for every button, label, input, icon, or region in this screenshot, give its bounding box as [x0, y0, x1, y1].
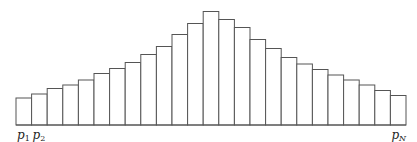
label-p2: p2	[33, 129, 46, 142]
bar	[32, 94, 48, 125]
bar	[63, 85, 79, 125]
bar	[297, 64, 313, 125]
bar	[188, 24, 204, 126]
bar	[219, 20, 235, 126]
bar	[203, 12, 219, 126]
histogram-diagram	[0, 0, 417, 142]
bar	[390, 96, 406, 126]
bar	[78, 80, 94, 125]
bar	[156, 47, 172, 126]
bar	[359, 85, 375, 125]
label-p1: p1	[17, 129, 30, 142]
bar	[47, 89, 63, 126]
bar	[266, 49, 282, 126]
label-pN: pN	[391, 129, 406, 142]
bar	[16, 98, 32, 125]
bar	[250, 40, 266, 126]
bar	[172, 35, 188, 126]
bar	[94, 74, 110, 126]
bar	[125, 63, 141, 126]
bars-group	[16, 12, 406, 126]
bar	[281, 58, 297, 126]
bar	[328, 75, 344, 125]
bar	[110, 69, 126, 126]
bar	[375, 91, 391, 126]
bar	[234, 28, 250, 126]
bar	[312, 70, 328, 126]
bar	[344, 80, 360, 125]
bar	[141, 55, 157, 126]
